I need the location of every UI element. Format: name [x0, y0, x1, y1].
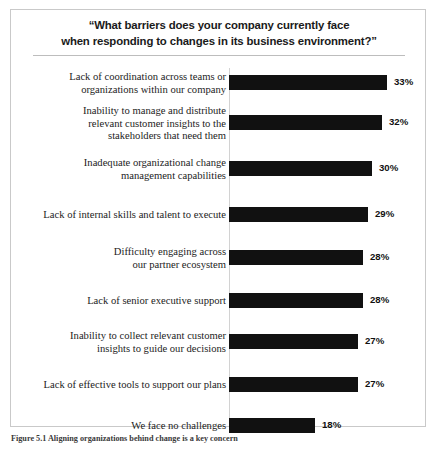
bar-category-line: insights to guide our decisions	[30, 343, 226, 356]
bar-fill	[229, 161, 372, 176]
bar-track	[229, 207, 368, 222]
bar-fill	[229, 418, 315, 433]
bar-value-label: 27%	[365, 335, 384, 346]
bar-category-label: Lack of internal skills and talent to ex…	[30, 209, 226, 222]
bar-category-line: Inability to manage and distribute	[30, 105, 226, 118]
bar-track	[229, 75, 387, 90]
bar-value-label: 18%	[322, 419, 341, 430]
bar-category-line: organizations within our company	[30, 84, 226, 97]
title-divider	[33, 55, 405, 56]
bar-category-line: our partner ecosystem	[30, 259, 226, 272]
bar-category-line: management capabilities	[30, 170, 226, 183]
bar-fill	[229, 75, 387, 90]
bar-track	[229, 377, 358, 392]
bar-value-label: 29%	[375, 208, 394, 219]
bar-row: Inability to manage and distribute relev…	[11, 104, 425, 142]
bar-category-line: relevant customer insights to the	[30, 118, 226, 131]
bar-value-label: 30%	[379, 162, 398, 173]
bar-category-line: Difficulty engaging across	[30, 246, 226, 259]
bar-row: Difficulty engaging across our partner e…	[11, 239, 425, 277]
bar-category-label: Inability to collect relevant customer i…	[30, 330, 226, 355]
bar-category-label: Lack of coordination across teams or org…	[30, 71, 226, 96]
bar-fill	[229, 377, 358, 392]
bar-track	[229, 418, 315, 433]
bar-fill	[229, 293, 363, 308]
bar-category-line: Inability to collect relevant customer	[30, 330, 226, 343]
bar-category-label: We face no challenges	[30, 420, 226, 433]
bar-row: Inadequate organizational change managem…	[11, 150, 425, 188]
figure-frame: “What barriers does your company current…	[10, 9, 426, 427]
bar-track	[229, 115, 382, 130]
bar-fill	[229, 115, 382, 130]
bar-category-line: Lack of senior executive support	[30, 295, 226, 308]
chart-title-line-2: when responding to changes in its busine…	[29, 34, 409, 50]
bar-category-label: Difficulty engaging across our partner e…	[30, 246, 226, 271]
bar-value-label: 33%	[394, 76, 413, 87]
bar-row: Lack of coordination across teams or org…	[11, 64, 425, 102]
bar-category-label: Inability to manage and distribute relev…	[30, 105, 226, 143]
bar-value-label: 28%	[370, 251, 389, 262]
bar-category-line: Lack of effective tools to support our p…	[30, 379, 226, 392]
bar-chart-plot-area: Lack of coordination across teams or org…	[11, 64, 425, 426]
bar-row: Lack of effective tools to support our p…	[11, 366, 425, 404]
bar-track	[229, 161, 372, 176]
bar-value-label: 28%	[370, 294, 389, 305]
bar-category-line: Inadequate organizational change	[30, 157, 226, 170]
chart-title-line-1: “What barriers does your company current…	[29, 18, 409, 34]
bar-row: Lack of senior executive support 28%	[11, 282, 425, 320]
chart-title: “What barriers does your company current…	[29, 18, 409, 49]
bar-category-line: Lack of coordination across teams or	[30, 71, 226, 84]
bar-row: Inability to collect relevant customer i…	[11, 323, 425, 361]
bar-fill	[229, 250, 363, 265]
bar-category-line: stakeholders that need them	[30, 130, 226, 143]
bar-value-label: 32%	[389, 116, 408, 127]
bar-fill	[229, 334, 358, 349]
bar-value-label: 27%	[365, 378, 384, 389]
bar-category-label: Lack of senior executive support	[30, 295, 226, 308]
bar-fill	[229, 207, 368, 222]
figure-caption: Figure 5.1 Aligning organizations behind…	[11, 434, 431, 444]
bar-track	[229, 334, 358, 349]
bar-row: Lack of internal skills and talent to ex…	[11, 196, 425, 234]
bar-category-line: Lack of internal skills and talent to ex…	[30, 209, 226, 222]
bar-category-label: Inadequate organizational change managem…	[30, 157, 226, 182]
bar-category-label: Lack of effective tools to support our p…	[30, 379, 226, 392]
bar-category-line: We face no challenges	[30, 420, 226, 433]
bar-track	[229, 293, 363, 308]
bar-track	[229, 250, 363, 265]
